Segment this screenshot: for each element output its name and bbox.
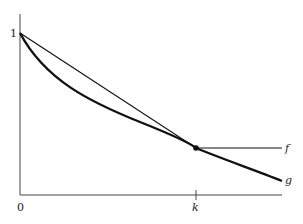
curve-f	[20, 33, 282, 148]
f-label: f	[284, 142, 291, 155]
origin-label: 0	[17, 201, 24, 214]
intersection-point	[193, 145, 199, 151]
k-label: k	[192, 201, 199, 214]
g-label: g	[285, 174, 292, 187]
curve-g	[20, 33, 282, 181]
y-intercept-label: 1	[10, 27, 17, 40]
diagram: 1 0 k f g	[0, 0, 303, 224]
